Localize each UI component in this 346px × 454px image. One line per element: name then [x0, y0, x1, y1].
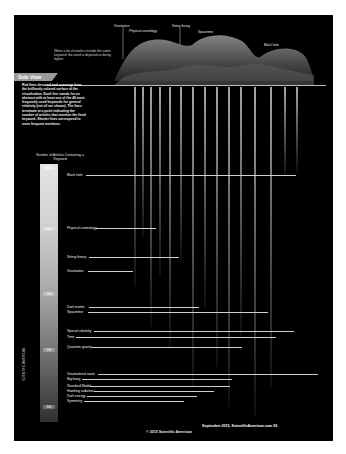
scale-bar: 500 400 300 200 100: [40, 164, 58, 422]
leader-line: [88, 312, 268, 313]
strand: [192, 87, 194, 387]
leader-line: [86, 175, 296, 176]
surface-label-physical-cosmology: Physical cosmology: [129, 29, 157, 33]
leader-line: [96, 228, 156, 229]
leader-line: [76, 337, 276, 338]
keyword-dark-matter: Dark matter: [67, 305, 85, 309]
strand: [270, 87, 272, 387]
strand: [284, 87, 286, 177]
scale-title: Number of Articles Containing a Keyword: [35, 153, 85, 161]
keyword-gravitation: Gravitation: [67, 269, 83, 273]
leader-line: [92, 347, 242, 348]
rotated-caption: SCIENTIFIC AMERICAN: [22, 348, 26, 381]
side-view-description: Red lines descend and converge from the …: [22, 83, 86, 126]
copyright: © 2015 Scientific American: [146, 430, 192, 434]
tick-400: 400: [43, 227, 55, 231]
figure-panel: Gravitation Physical cosmology String th…: [14, 15, 333, 441]
keyword-hawking-radiation: Hawking radiation: [67, 389, 94, 393]
strand: [240, 87, 242, 337]
keyword-string-theory: String theory: [67, 255, 86, 259]
keyword-black-hole: Black hole: [67, 173, 83, 177]
strand: [204, 87, 206, 307]
side-view-tab: Side View: [14, 73, 58, 81]
horizon-line: [46, 85, 326, 86]
keyword-standard-model: Standard Model: [67, 384, 91, 388]
keyword-quantum-gravity: Quantum gravity: [67, 345, 92, 349]
keyword-spacetime: Spacetime: [67, 310, 83, 314]
page-info: September 2015, ScientificAmerican.com 5…: [202, 424, 277, 428]
leader-line: [84, 401, 184, 402]
keyword-big-bang: Big bang: [67, 377, 80, 381]
keyword-dark-energy: Dark energy: [67, 394, 85, 398]
surface-label-gravitation: Gravitation: [114, 24, 129, 28]
side-view-tab-label: Side View: [18, 74, 41, 80]
leader-line: [90, 386, 230, 387]
tick-100: 100: [43, 405, 55, 409]
tick-200: 200: [43, 348, 55, 352]
tick-500: 500: [43, 166, 55, 170]
strand: [216, 87, 218, 367]
surface-label-string-theory: String theory: [172, 24, 190, 28]
strand: [228, 87, 230, 407]
surface-label-spacetime: Spacetime: [198, 30, 213, 34]
leader-line: [87, 396, 197, 397]
leader-line: [89, 307, 199, 308]
keyword-gravitational-wave: Gravitational wave: [67, 372, 95, 376]
leader-line: [94, 391, 214, 392]
leader-line: [98, 374, 318, 375]
tick-300: 300: [43, 292, 55, 296]
surface-label-black-hole: Black hole: [264, 43, 279, 47]
leader-line: [82, 379, 232, 380]
keyword-special-relativity: Special relativity: [67, 329, 92, 333]
leader-line: [94, 331, 294, 332]
keyword-physical-cosmology: Physical cosmology: [67, 226, 97, 230]
keyword-symmetry: Symmetry: [67, 399, 82, 403]
strand: [254, 87, 256, 417]
keyword-time: Time: [67, 335, 74, 339]
leader-line: [89, 257, 179, 258]
leader-line: [88, 271, 133, 272]
strand: [296, 87, 298, 172]
strand: [159, 87, 161, 277]
strand: [169, 87, 171, 347]
strand: [142, 87, 144, 237]
intro-text: When a lot of articles include the same …: [54, 49, 116, 61]
strand: [150, 87, 152, 327]
